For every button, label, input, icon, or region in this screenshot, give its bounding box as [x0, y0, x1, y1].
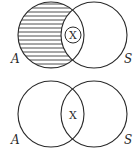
venn-diagram-bottom: X A S	[10, 81, 132, 147]
x-marker-label: X	[69, 29, 77, 42]
set-a-label: A	[10, 133, 20, 147]
x-marker-label: X	[69, 109, 77, 122]
set-a-label: A	[10, 52, 20, 66]
set-s-label: S	[124, 52, 132, 66]
venn-diagram-top: X A S	[10, 2, 132, 68]
venn-diagrams: X A S X A S	[0, 0, 136, 150]
set-s-label: S	[124, 133, 132, 147]
